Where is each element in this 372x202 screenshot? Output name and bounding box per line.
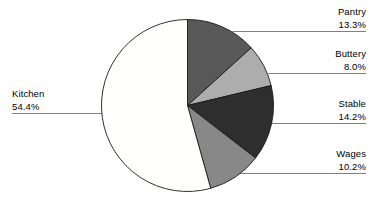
- slice-label-buttery: Buttery 8.0%: [335, 48, 366, 73]
- slice-label-buttery-category: Buttery: [335, 48, 366, 61]
- slice-label-wages-category: Wages: [336, 148, 366, 161]
- slice-label-stable-category: Stable: [338, 98, 366, 111]
- slice-label-buttery-percent: 8.0%: [335, 61, 366, 74]
- slice-label-kitchen-category: Kitchen: [12, 88, 44, 101]
- pie-chart-canvas: [0, 0, 372, 202]
- slice-label-stable-percent: 14.2%: [338, 111, 366, 124]
- slice-label-stable: Stable 14.2%: [338, 98, 366, 123]
- slice-label-wages: Wages 10.2%: [336, 148, 366, 173]
- slice-label-kitchen-percent: 54.4%: [12, 101, 44, 114]
- pie-chart-figure: Pantry 13.3% Buttery 8.0% Stable 14.2% W…: [0, 0, 372, 202]
- slice-label-pantry: Pantry 13.3%: [338, 6, 366, 31]
- slice-label-kitchen: Kitchen 54.4%: [12, 88, 44, 113]
- slice-label-pantry-percent: 13.3%: [338, 19, 366, 32]
- slice-label-wages-percent: 10.2%: [336, 161, 366, 174]
- slice-label-pantry-category: Pantry: [338, 6, 366, 19]
- pie-slices: [101, 19, 273, 191]
